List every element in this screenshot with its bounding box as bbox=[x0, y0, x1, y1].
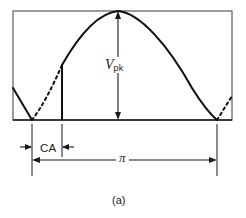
half-cycle-pi-label: π bbox=[116, 151, 129, 164]
peak-voltage-symbol: V bbox=[105, 57, 114, 72]
trailing-blocked-portion-dashed bbox=[217, 96, 232, 120]
figure-container: Vpk CA π (a) bbox=[0, 0, 246, 218]
figure-caption: (a) bbox=[112, 195, 125, 206]
conducting-sine-curve bbox=[62, 11, 217, 120]
previous-cycle-tail-curve bbox=[13, 88, 32, 120]
rectified-sine-waveform-diagram bbox=[0, 0, 246, 218]
blocked-sine-portion-dashed bbox=[32, 65, 62, 120]
peak-voltage-subscript: pk bbox=[114, 63, 124, 73]
conduction-angle-label: CA bbox=[38, 143, 59, 155]
peak-voltage-label: Vpk bbox=[103, 57, 125, 73]
